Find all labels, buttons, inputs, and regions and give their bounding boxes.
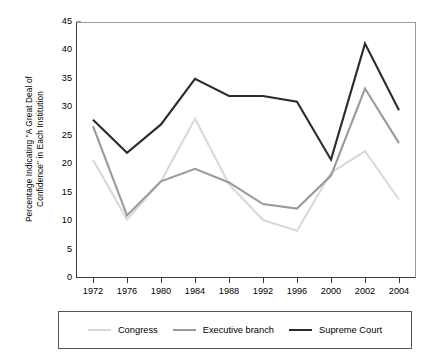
x-axis-tick-mark xyxy=(365,278,366,283)
y-axis-tick-labels: 051015202530354045 xyxy=(50,0,72,360)
series-line-supreme-court xyxy=(93,44,399,160)
x-axis-tick-mark xyxy=(93,278,94,283)
y-axis-tick-label: 5 xyxy=(54,245,72,254)
y-axis-tick-label: 30 xyxy=(54,103,72,112)
y-axis-title-line-2: Confidence" in Each Institution xyxy=(35,76,46,222)
legend-swatch-line-icon xyxy=(289,329,312,331)
legend-item-label: Congress xyxy=(118,325,158,335)
y-axis-tick-label: 0 xyxy=(54,273,72,282)
y-axis-title-line-1: Percentage Indicating "A Great Deal of xyxy=(24,76,35,222)
data-series-group xyxy=(76,22,416,278)
x-axis-tick-mark xyxy=(297,278,298,283)
legend-item[interactable]: Executive branch xyxy=(173,325,274,335)
x-axis-tick-mark xyxy=(229,278,230,283)
y-axis-tick-label: 15 xyxy=(54,188,72,197)
y-axis-tick-label: 35 xyxy=(54,74,72,83)
y-axis-tick-label: 25 xyxy=(54,131,72,140)
x-axis-tick-mark xyxy=(127,278,128,283)
y-axis-tick-label: 40 xyxy=(54,46,72,55)
legend: CongressExecutive branchSupreme Court xyxy=(58,311,412,349)
y-axis-tick-label: 10 xyxy=(54,217,72,226)
legend-swatch-line-icon xyxy=(173,329,196,331)
y-axis-tick-label: 20 xyxy=(54,160,72,169)
series-line-executive-branch xyxy=(93,89,399,216)
x-axis-tick-mark xyxy=(161,278,162,283)
series-line-congress xyxy=(93,119,399,231)
line-chart: Percentage Indicating "A Great Deal of C… xyxy=(0,0,435,360)
y-axis-tick-label: 45 xyxy=(54,17,72,26)
legend-item-label: Supreme Court xyxy=(319,325,382,335)
x-axis-tick-mark xyxy=(263,278,264,283)
legend-item-label: Executive branch xyxy=(203,325,274,335)
legend-swatch-line-icon xyxy=(88,329,111,331)
legend-item[interactable]: Supreme Court xyxy=(289,325,382,335)
x-axis-tick-mark xyxy=(195,278,196,283)
legend-item[interactable]: Congress xyxy=(88,325,158,335)
x-axis-tick-label: 2004 xyxy=(377,286,421,296)
y-axis-title: Percentage Indicating "A Great Deal of C… xyxy=(18,16,52,282)
x-axis-tick-mark xyxy=(399,278,400,283)
x-axis-tick-mark xyxy=(331,278,332,283)
